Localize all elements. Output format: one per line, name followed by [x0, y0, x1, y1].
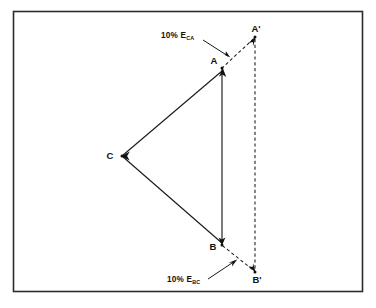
- annotation-eca-prefix: 10% E: [161, 31, 186, 40]
- vector-diagram: A B C A' B' 10% ECA 10% EBC: [0, 0, 376, 308]
- point-marker-b: [221, 244, 224, 247]
- annotation-ebc-prefix: 10% E: [167, 275, 192, 284]
- point-marker-c: [121, 155, 124, 158]
- point-marker-aprime: [254, 36, 257, 39]
- point-label-b: B: [210, 241, 217, 252]
- annotation-ebc-subscript: BC: [192, 279, 200, 285]
- point-label-a: A: [211, 55, 218, 66]
- point-label-bprime: B': [252, 274, 261, 285]
- point-marker-a: [221, 67, 224, 70]
- point-label-aprime: A': [251, 23, 260, 34]
- point-label-c: C: [107, 150, 114, 161]
- figure-background: [0, 0, 376, 308]
- figure-canvas: A B C A' B' 10% ECA 10% EBC: [0, 0, 376, 308]
- annotation-eca-subscript: CA: [186, 35, 194, 41]
